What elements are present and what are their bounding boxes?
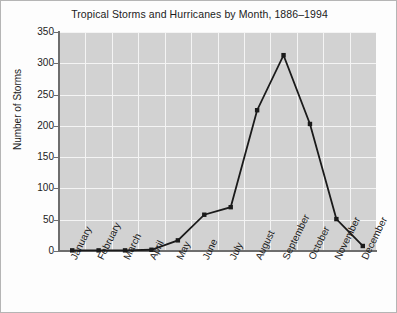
x-tick-label: June <box>201 238 219 262</box>
x-tick-label: February <box>96 221 123 261</box>
x-tick-label: November <box>333 216 362 262</box>
chart-figure: Tropical Storms and Hurricanes by Month,… <box>0 0 397 313</box>
x-tick-label: January <box>69 225 94 261</box>
x-tick-label: December <box>360 216 389 262</box>
x-axis-ticks: JanuaryFebruaryMarchAprilMayJuneJulyAugu… <box>1 1 397 313</box>
x-tick-label: May <box>175 240 192 261</box>
x-tick-label: August <box>254 229 277 261</box>
x-tick-label: April <box>148 239 166 261</box>
x-tick-label: July <box>228 241 245 261</box>
x-tick-label: March <box>122 232 143 261</box>
x-tick-label: October <box>307 225 332 261</box>
